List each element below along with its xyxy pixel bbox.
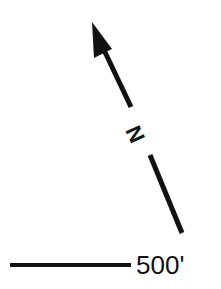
- arrowhead-icon: [92, 22, 112, 58]
- north-arrow-icon: N: [0, 0, 221, 289]
- scale-label: 500': [136, 251, 184, 279]
- north-arrow-shaft-lower: [150, 155, 182, 233]
- scale-bar: [10, 263, 131, 267]
- north-arrow-shaft-upper: [104, 50, 131, 107]
- north-label: N: [120, 122, 149, 147]
